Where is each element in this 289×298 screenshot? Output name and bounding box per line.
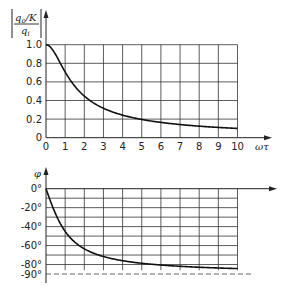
svg-text:-20°: -20° — [21, 202, 42, 213]
svg-text:3: 3 — [100, 141, 106, 152]
svg-text:0.4: 0.4 — [26, 95, 42, 106]
svg-text:0: 0 — [36, 132, 42, 143]
svg-text:4: 4 — [119, 141, 125, 152]
svg-text:6: 6 — [158, 141, 164, 152]
phase-tick-labels: 0°-20°-40°-60°-80°-90° — [21, 183, 42, 279]
svg-text:1: 1 — [62, 141, 68, 152]
svg-text:0.2: 0.2 — [26, 114, 42, 125]
svg-text:5: 5 — [139, 141, 145, 152]
svg-text:9: 9 — [215, 141, 221, 152]
ylabel-numerator: qo/K — [15, 12, 37, 25]
svg-text:10: 10 — [231, 141, 244, 152]
svg-text:2: 2 — [81, 141, 87, 152]
magnitude-ylabel: qo/K qi — [12, 9, 41, 38]
phase-ylabel: φ — [34, 168, 41, 179]
svg-text:-60°: -60° — [21, 240, 42, 251]
svg-text:0.8: 0.8 — [26, 58, 42, 69]
svg-text:-40°: -40° — [21, 221, 42, 232]
magnitude-grid — [46, 45, 238, 138]
svg-text:0°: 0° — [31, 183, 42, 194]
xlabel: ωτ — [255, 141, 269, 152]
svg-text:-90°: -90° — [21, 269, 42, 280]
svg-text:0.6: 0.6 — [26, 76, 42, 87]
phase-grid — [46, 189, 254, 274]
ylabel-denominator: qi — [21, 25, 30, 38]
svg-text:1.0: 1.0 — [26, 39, 42, 50]
magnitude-tick-labels: 01234567891000.20.40.60.81.0 — [26, 39, 244, 152]
svg-text:7: 7 — [177, 141, 183, 152]
svg-text:0: 0 — [43, 141, 49, 152]
bode-plot: 01234567891000.20.40.60.81.0 0°-20°-40°-… — [0, 0, 289, 298]
svg-text:8: 8 — [196, 141, 202, 152]
